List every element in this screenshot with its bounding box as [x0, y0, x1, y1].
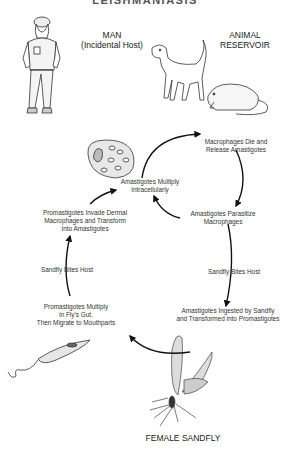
macrophage-cell-icon [88, 140, 134, 178]
stage-promastigotes-multiply: Promastigotes Multiply in Fly's Gut. The… [26, 303, 126, 327]
stage-macrophages-die: Macrophages Die and Release Amastigotes [196, 138, 276, 154]
stage-promastigotes-invade: Promastigotes Invade Dermal Macrophages … [30, 209, 140, 233]
stage-bite-host-left: Sandfly Bites Host [32, 266, 102, 274]
female-sandfly-label: FEMALE SANDFLY [138, 433, 228, 443]
sandfly-icon [150, 336, 212, 426]
stage-bite-host-right: Sandfly Bites Host [194, 268, 274, 276]
man-label: MAN (Incidental Host) [72, 30, 152, 50]
stage-amastigotes-multiply: Amastigotes Multiply Intracellularly [110, 178, 190, 194]
promastigote-icon [8, 340, 90, 377]
dog-icon [152, 40, 206, 100]
stage-ingested: Amastigotes Ingested by Sandfly and Tran… [166, 307, 290, 323]
stage-amastigotes-parasitize: Amastigotes Parasitize Macrophages [178, 210, 268, 226]
rat-icon [208, 84, 268, 115]
animal-reservoir-label: ANIMAL RESERVOIR [210, 30, 280, 50]
man-icon [23, 17, 60, 113]
